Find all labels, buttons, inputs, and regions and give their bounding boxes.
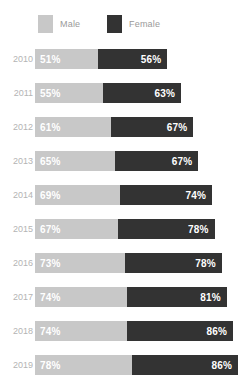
bar-segment-female-2013: 67% (115, 151, 198, 171)
chart-row: 201261%67% (0, 117, 250, 137)
chart-row: 201051%56% (0, 49, 250, 69)
legend-label-female: Female (129, 19, 160, 29)
chart-row: 201774%81% (0, 287, 250, 307)
bar-value-female-2018: 86% (206, 326, 227, 337)
chart-row: 201874%86% (0, 321, 250, 341)
stacked-bar-2017: 74%81% (35, 287, 227, 307)
bar-value-female-2011: 63% (154, 88, 175, 99)
stacked-bar-2010: 51%56% (35, 49, 167, 69)
stacked-bar-2015: 67%78% (35, 219, 215, 239)
legend-label-male: Male (60, 19, 80, 29)
year-label-2010: 2010 (13, 49, 33, 69)
year-label-2016: 2016 (13, 253, 33, 273)
year-label-2012: 2012 (13, 117, 33, 137)
bar-segment-female-2018: 86% (127, 321, 233, 341)
stacked-bar-2019: 78%86% (35, 355, 238, 375)
bar-segment-male-2018: 74% (35, 321, 127, 341)
bar-value-female-2012: 67% (167, 122, 188, 133)
bar-segment-male-2013: 65% (35, 151, 115, 171)
stacked-bar-2014: 69%74% (35, 185, 212, 205)
legend-item-female: Female (107, 15, 160, 33)
year-label-2014: 2014 (13, 185, 33, 205)
stacked-bar-2011: 55%63% (35, 83, 181, 103)
bar-segment-male-2016: 73% (35, 253, 125, 273)
chart-row: 201673%78% (0, 253, 250, 273)
chart-row: 201567%78% (0, 219, 250, 239)
stacked-bar-2016: 73%78% (35, 253, 222, 273)
bar-segment-female-2014: 74% (120, 185, 212, 205)
stacked-bar-2012: 61%67% (35, 117, 193, 137)
year-label-2015: 2015 (13, 219, 33, 239)
bar-value-male-2017: 74% (40, 292, 61, 303)
bar-value-female-2016: 78% (195, 258, 216, 269)
bar-value-female-2015: 78% (188, 224, 209, 235)
bar-segment-female-2017: 81% (127, 287, 227, 307)
bar-segment-female-2016: 78% (125, 253, 222, 273)
bar-value-male-2012: 61% (40, 122, 61, 133)
bar-value-female-2010: 56% (141, 54, 162, 65)
bar-segment-male-2010: 51% (35, 49, 98, 69)
bar-segment-male-2012: 61% (35, 117, 111, 137)
bar-segment-female-2012: 67% (111, 117, 194, 137)
bar-value-male-2013: 65% (40, 156, 61, 167)
chart-row: 201978%86% (0, 355, 250, 375)
bar-segment-male-2011: 55% (35, 83, 103, 103)
bar-value-male-2019: 78% (40, 360, 61, 371)
bar-segment-female-2011: 63% (103, 83, 181, 103)
bar-value-female-2017: 81% (200, 292, 221, 303)
bar-segment-male-2014: 69% (35, 185, 120, 205)
bar-segment-male-2019: 78% (35, 355, 132, 375)
legend-item-male: Male (38, 15, 80, 33)
male-swatch-icon (38, 15, 53, 33)
year-label-2019: 2019 (13, 355, 33, 375)
chart-row: 201469%74% (0, 185, 250, 205)
bar-value-male-2015: 67% (40, 224, 61, 235)
stacked-bar-chart: 201051%56%201155%63%201261%67%201365%67%… (0, 46, 250, 391)
year-label-2017: 2017 (13, 287, 33, 307)
bar-segment-male-2017: 74% (35, 287, 127, 307)
chart-row: 201365%67% (0, 151, 250, 171)
chart-legend: Male Female (0, 0, 250, 46)
year-label-2011: 2011 (14, 83, 33, 103)
bar-value-female-2019: 86% (211, 360, 232, 371)
bar-value-female-2014: 74% (185, 190, 206, 201)
bar-value-male-2014: 69% (40, 190, 61, 201)
female-swatch-icon (107, 15, 122, 33)
bar-segment-female-2019: 86% (132, 355, 238, 375)
bar-value-male-2011: 55% (40, 88, 61, 99)
bar-value-male-2010: 51% (40, 54, 61, 65)
year-label-2018: 2018 (13, 321, 33, 341)
stacked-bar-2013: 65%67% (35, 151, 198, 171)
stacked-bar-2018: 74%86% (35, 321, 233, 341)
bar-segment-female-2015: 78% (118, 219, 215, 239)
bar-value-female-2013: 67% (172, 156, 193, 167)
bar-segment-male-2015: 67% (35, 219, 118, 239)
chart-row: 201155%63% (0, 83, 250, 103)
year-label-2013: 2013 (13, 151, 33, 171)
bar-segment-female-2010: 56% (98, 49, 167, 69)
bar-value-male-2016: 73% (40, 258, 61, 269)
bar-value-male-2018: 74% (40, 326, 61, 337)
